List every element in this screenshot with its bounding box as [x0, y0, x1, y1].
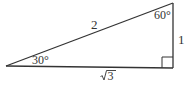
base-radicand: 3	[108, 69, 114, 83]
right-angle-marker	[162, 57, 173, 68]
left-angle-label: 30°	[32, 53, 49, 67]
triangle-diagram: 2 1 60° 30° 3	[0, 0, 187, 88]
hypotenuse-label: 2	[91, 17, 98, 32]
vertical-leg-label: 1	[178, 32, 185, 47]
top-angle-label: 60°	[154, 8, 171, 22]
base-label: 3	[101, 69, 117, 83]
